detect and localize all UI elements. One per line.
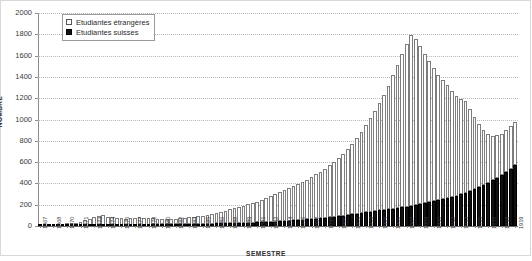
- x-tick-label-1892: 1892: [273, 217, 279, 229]
- bar-segment-etrangeres: [369, 118, 373, 212]
- x-tick-mark-1915: [475, 226, 476, 228]
- bar-1886-S2: [215, 213, 219, 226]
- x-tick-mark-1876: [121, 226, 122, 228]
- x-tick-mark-1907: [407, 226, 408, 228]
- bar-segment-etrangeres: [464, 101, 468, 193]
- bar-segment-etrangeres: [323, 169, 327, 218]
- x-tick-label-1889: 1889: [246, 217, 252, 229]
- x-tick-label-1904: 1904: [382, 217, 388, 229]
- bar-segment-etrangeres: [482, 130, 486, 185]
- bar-segment-etrangeres: [436, 75, 440, 201]
- bar-segment-suisses: [513, 165, 517, 226]
- bar-segment-etrangeres: [468, 109, 472, 191]
- y-tick-label-1800: 1800: [2, 30, 32, 38]
- bar-1882-S1: [174, 219, 178, 226]
- bar-1919-S1: [509, 126, 513, 226]
- bar-segment-etrangeres: [337, 158, 341, 216]
- bar-segment-etrangeres: [459, 99, 463, 195]
- bar-1911-S2: [441, 80, 445, 226]
- bar-segment-etrangeres: [378, 103, 382, 211]
- x-tick-mark-1892: [271, 226, 272, 228]
- bar-1912-S2: [450, 91, 454, 226]
- x-tick-label-1915: 1915: [477, 217, 483, 229]
- y-tick-mark-1400: [35, 77, 38, 78]
- bar-segment-suisses: [378, 210, 382, 226]
- bar-segment-suisses: [405, 207, 409, 226]
- bar-segment-suisses: [418, 204, 422, 226]
- bar-segment-etrangeres: [360, 132, 364, 213]
- x-tick-mark-1882: [176, 226, 177, 228]
- bar-segment-suisses: [473, 189, 477, 226]
- bar-segment-etrangeres: [387, 86, 391, 210]
- x-tick-label-1903: 1903: [368, 217, 374, 229]
- x-tick-label-1900: 1900: [341, 217, 347, 229]
- x-tick-mark-1878: [149, 226, 150, 228]
- y-tick-label-1600: 1600: [2, 52, 32, 60]
- x-tick-label-1888: 1888: [232, 217, 238, 229]
- bar-segment-etrangeres: [301, 182, 305, 220]
- bar-1891-S1: [255, 202, 259, 226]
- x-tick-label-1895: 1895: [300, 217, 306, 229]
- y-tick-mark-2000: [35, 13, 38, 14]
- bar-segment-etrangeres: [495, 135, 499, 178]
- bar-segment-etrangeres: [355, 138, 359, 214]
- bar-1906-S2: [396, 65, 400, 226]
- bar-segment-etrangeres: [504, 130, 508, 172]
- bar-segment-etrangeres: [396, 65, 400, 208]
- y-tick-mark-800: [35, 141, 38, 142]
- bar-1905-S2: [387, 86, 391, 226]
- x-tick-label-1882: 1882: [178, 217, 184, 229]
- bar-1907-S2: [405, 44, 409, 226]
- bar-1917-S1: [491, 136, 495, 226]
- x-tick-mark-1919: [515, 226, 516, 228]
- bar-series-group: [38, 13, 518, 226]
- y-tick-label-800: 800: [2, 137, 32, 145]
- bar-segment-suisses: [323, 218, 327, 226]
- bar-1908-S1: [409, 35, 413, 226]
- bar-segment-etrangeres: [491, 136, 495, 181]
- bar-1915-S1: [473, 117, 477, 226]
- bar-segment-etrangeres: [414, 39, 418, 205]
- y-tick-label-2000: 2000: [2, 9, 32, 17]
- bar-segment-etrangeres: [509, 126, 513, 169]
- bar-segment-etrangeres: [215, 213, 219, 223]
- x-axis-title: SEMESTRE: [0, 250, 532, 257]
- bar-segment-etrangeres: [409, 35, 413, 205]
- bar-segment-etrangeres: [187, 217, 191, 224]
- y-tick-label-200: 200: [2, 201, 32, 209]
- x-tick-mark-1909: [420, 226, 421, 228]
- x-tick-label-1883: 1883: [192, 217, 198, 229]
- x-tick-mark-1904: [379, 226, 380, 228]
- bar-1876-S1: [120, 218, 124, 226]
- chart-figure: NOMBRE 020040060080010001200140016001800…: [0, 0, 532, 261]
- bar-segment-etrangeres: [446, 85, 450, 198]
- legend-item-etrangeres: Etudiantes étrangères: [66, 17, 149, 27]
- x-tick-mark-1912: [447, 226, 448, 228]
- bar-segment-etrangeres: [486, 134, 490, 183]
- x-tick-mark-1891: [257, 226, 258, 228]
- bar-1918-S2: [504, 130, 508, 226]
- y-tick-mark-600: [35, 162, 38, 163]
- x-tick-mark-1916: [488, 226, 489, 228]
- bar-1880-S2: [160, 219, 164, 226]
- x-tick-label-1886: 1886: [219, 217, 225, 229]
- bar-segment-etrangeres: [450, 91, 454, 198]
- x-tick-mark-1889: [244, 226, 245, 228]
- x-tick-label-1874: 1874: [110, 217, 116, 229]
- bar-1902-S2: [360, 132, 364, 226]
- x-tick-label-1876: 1876: [124, 217, 130, 229]
- x-tick-label-1901: 1901: [355, 217, 361, 229]
- bar-segment-etrangeres: [296, 184, 300, 220]
- y-tick-label-1200: 1200: [2, 94, 32, 102]
- bar-1897-S1: [310, 177, 314, 226]
- y-tick-mark-1200: [35, 98, 38, 99]
- y-tick-label-400: 400: [2, 179, 32, 187]
- x-tick-label-1868: 1868: [56, 217, 62, 229]
- bar-1903-S1: [364, 125, 368, 226]
- bar-1898-S2: [323, 169, 327, 226]
- bar-1873-S1: [92, 217, 96, 226]
- bar-segment-etrangeres: [427, 61, 431, 203]
- x-tick-mark-1877: [135, 226, 136, 228]
- x-tick-mark-1873: [94, 226, 95, 228]
- bar-segment-etrangeres: [423, 54, 427, 203]
